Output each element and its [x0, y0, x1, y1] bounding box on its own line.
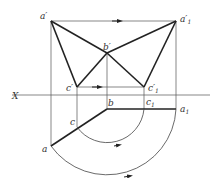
label-a1: a1 [180, 104, 189, 115]
label-a: a [42, 144, 47, 154]
front-view-triangle-rotated [107, 21, 176, 87]
label-a1-prime: a′1 [180, 14, 191, 25]
label-c1-prime: c′1 [148, 83, 159, 94]
label-c: c [70, 117, 75, 127]
label-c-prime: c′ [66, 83, 73, 93]
front-view-triangle-original [51, 21, 107, 87]
arc-arrow-c [114, 145, 119, 146]
rotation-diagram: X a′ a′1 b′ c′ c′1 b c1 a1 c a [0, 0, 218, 185]
label-a-prime: a′ [40, 11, 47, 21]
label-b: b [108, 98, 114, 108]
rotation-arc-c [77, 109, 144, 143]
arc-arrow-a [124, 176, 130, 177]
label-x-axis: X [11, 91, 19, 101]
label-b-prime: b′ [103, 42, 111, 52]
label-c1: c1 [146, 97, 155, 108]
top-view-line-ab [51, 109, 107, 146]
